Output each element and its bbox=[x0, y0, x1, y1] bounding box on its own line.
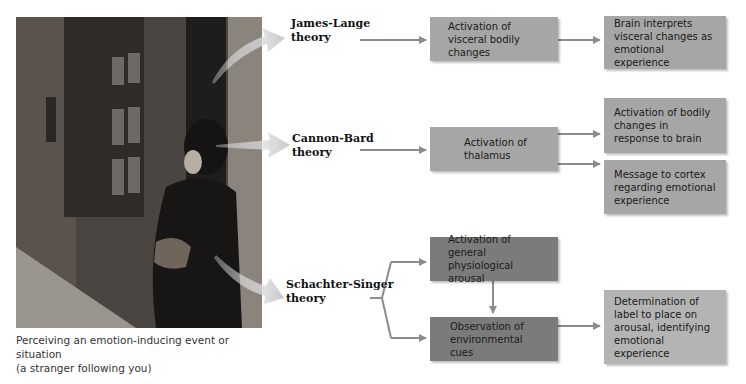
james-lange-step-box: Activation of visceral bodily changes bbox=[430, 17, 558, 61]
schachter-singer-outcome-box: Determination of label to place on arous… bbox=[604, 290, 726, 364]
theory-name: Cannon-Bard bbox=[292, 132, 374, 146]
cannon-bard-outcome-box-1: Activation of bodily changes in response… bbox=[604, 98, 726, 153]
box-text: Activation of thalamus bbox=[464, 136, 528, 162]
theory-word: theory bbox=[292, 146, 374, 160]
james-lange-label: James-Lange theory bbox=[291, 17, 370, 45]
box-text: Message to cortex regarding emotional ex… bbox=[614, 168, 716, 207]
box-text: Activation of bodily changes in response… bbox=[614, 106, 716, 145]
schachter-singer-cues-box: Observation of environmental cues bbox=[430, 317, 558, 361]
theory-name: James-Lange bbox=[291, 17, 370, 31]
cannon-bard-step-box: Activation of thalamus bbox=[430, 127, 558, 171]
box-text: Activation of general physiological arou… bbox=[448, 233, 548, 285]
schachter-singer-label: Schachter-Singer theory bbox=[286, 278, 394, 306]
theory-name: Schachter-Singer bbox=[286, 278, 394, 292]
box-text: Activation of visceral bodily changes bbox=[448, 20, 548, 59]
box-text: Determination of label to place on arous… bbox=[614, 295, 716, 360]
photo-to-schachter-singer-arrow bbox=[214, 255, 284, 304]
cannon-bard-outcome-box-2: Message to cortex regarding emotional ex… bbox=[604, 160, 726, 214]
box-text: Brain interprets visceral changes as emo… bbox=[614, 17, 716, 69]
cannon-bard-label: Cannon-Bard theory bbox=[292, 132, 374, 160]
theory-word: theory bbox=[291, 31, 370, 45]
box-text: Observation of environmental cues bbox=[450, 320, 548, 359]
schachter-singer-arousal-box: Activation of general physiological arou… bbox=[430, 237, 558, 281]
james-lange-outcome-box: Brain interprets visceral changes as emo… bbox=[604, 16, 726, 69]
theory-word: theory bbox=[286, 292, 394, 306]
photo-to-cannon-bard-arrow bbox=[216, 132, 290, 158]
photo-to-james-lange-arrow bbox=[212, 28, 285, 84]
